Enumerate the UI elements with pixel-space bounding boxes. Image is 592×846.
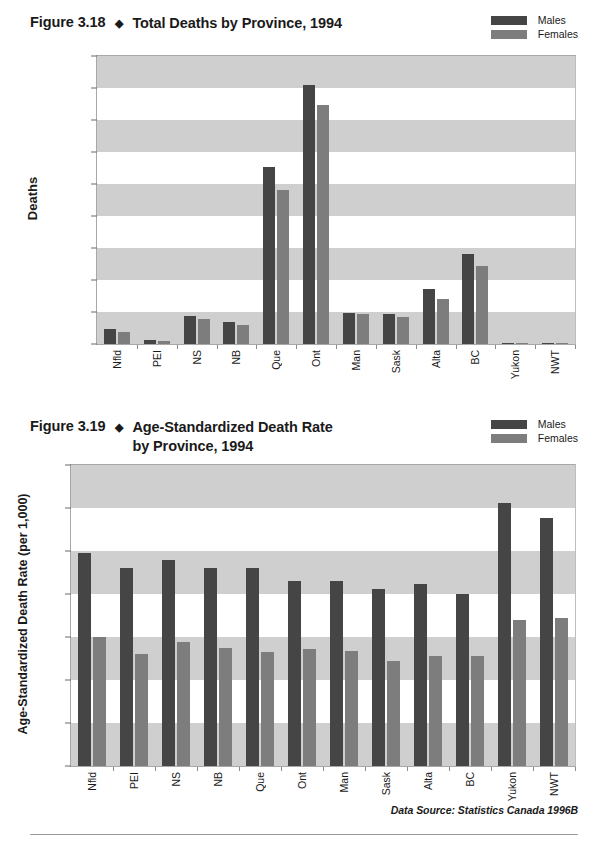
- y-tick-mark: [65, 637, 71, 638]
- bar-que-females: [261, 652, 274, 766]
- bar-nwt-males: [542, 343, 554, 344]
- bar-nb-males: [204, 568, 217, 766]
- legend-entry-females: Females: [491, 27, 578, 41]
- x-tick-label-nwt: NWT: [548, 772, 560, 796]
- legend-entry-females: Females: [491, 431, 578, 445]
- bar-pei-females: [158, 341, 170, 344]
- bar-ns-males: [184, 316, 196, 344]
- x-tick-mark: [177, 345, 178, 349]
- x-tick-mark: [137, 345, 138, 349]
- figure-2-plot: [70, 464, 576, 767]
- bar-pei-females: [135, 654, 148, 766]
- x-tick-label-sask: Sask: [390, 350, 402, 373]
- figure-1-plot: [96, 55, 576, 345]
- x-tick-mark: [407, 767, 408, 771]
- bar-nwt-females: [556, 343, 568, 344]
- bar-que-males: [263, 167, 275, 344]
- bar-alta-males: [423, 289, 435, 344]
- x-tick-label-alta: Alta: [430, 350, 442, 368]
- bar-sask-males: [383, 314, 395, 344]
- legend-swatch-males-icon: [491, 16, 527, 25]
- x-tick-label-bc: BC: [469, 350, 481, 365]
- y-tick-mark: [91, 152, 97, 153]
- bar-pei-males: [120, 568, 133, 766]
- x-tick-label-nfld: Nfld: [86, 772, 98, 791]
- figure-1-legend: Males Females: [491, 13, 578, 41]
- x-tick-mark: [533, 767, 534, 771]
- bar-ns-males: [162, 560, 175, 766]
- x-tick-mark: [256, 345, 257, 349]
- x-tick-mark: [281, 767, 282, 771]
- x-tick-label-sask: Sask: [380, 772, 392, 795]
- x-tick-label-alta: Alta: [422, 772, 434, 790]
- bars-layer: [71, 465, 575, 766]
- bar-man-males: [330, 581, 343, 766]
- bar-ns-females: [198, 319, 210, 344]
- bar-ont-females: [317, 105, 329, 344]
- x-tick-mark: [197, 767, 198, 771]
- legend-swatch-females-icon: [491, 434, 527, 443]
- x-tick-mark: [575, 767, 576, 771]
- legend-label-males: Males: [538, 417, 566, 431]
- bar-man-females: [357, 314, 369, 344]
- bar-ns-females: [177, 642, 190, 766]
- bar-sask-males: [372, 589, 385, 766]
- bar-nfld-males: [104, 329, 116, 344]
- y-tick-mark: [91, 120, 97, 121]
- figure-1-number: Figure 3.18: [30, 14, 105, 30]
- x-tick-mark: [495, 345, 496, 349]
- x-tick-label-bc: BC: [464, 772, 476, 787]
- x-tick-label-yukon: Yukon: [506, 772, 518, 801]
- bar-nwt-females: [555, 618, 568, 766]
- x-tick-mark: [296, 345, 297, 349]
- bar-yukon-females: [513, 620, 526, 766]
- diamond-icon: ◆: [115, 418, 123, 436]
- y-tick-mark: [91, 280, 97, 281]
- bar-nb-females: [237, 325, 249, 344]
- x-tick-mark: [376, 345, 377, 349]
- legend-swatch-males-icon: [491, 420, 527, 429]
- data-source-note: Data Source: Statistics Canada 1996B: [391, 804, 578, 816]
- x-tick-label-man: Man: [338, 772, 350, 792]
- bar-bc-females: [476, 266, 488, 344]
- bar-bc-males: [456, 594, 469, 766]
- page-bottom-rule: [30, 834, 578, 835]
- x-tick-mark: [535, 345, 536, 349]
- bar-alta-females: [437, 299, 449, 344]
- bar-yukon-males: [502, 343, 514, 344]
- legend-swatch-females-icon: [491, 30, 527, 39]
- y-tick-mark: [65, 680, 71, 681]
- bars-layer: [97, 56, 575, 344]
- bar-que-males: [246, 568, 259, 766]
- x-tick-mark: [491, 767, 492, 771]
- bar-sask-females: [387, 661, 400, 766]
- x-tick-mark: [155, 767, 156, 771]
- bar-nb-females: [219, 648, 232, 766]
- y-tick-mark: [65, 508, 71, 509]
- legend-entry-males: Males: [491, 13, 578, 27]
- x-tick-mark: [336, 345, 337, 349]
- legend-label-males: Males: [538, 13, 566, 27]
- x-tick-label-ont: Ont: [296, 772, 308, 789]
- x-tick-label-nb: NB: [230, 350, 242, 365]
- y-tick-mark: [65, 594, 71, 595]
- x-tick-mark: [416, 345, 417, 349]
- y-tick-mark: [91, 312, 97, 313]
- figure-1-title-row: Figure 3.18 ◆ Total Deaths by Province, …: [30, 14, 342, 33]
- x-tick-mark: [575, 345, 576, 349]
- bar-nb-males: [223, 322, 235, 344]
- y-tick-mark: [65, 723, 71, 724]
- figure-2-title: Age-Standardized Death Rate by Province,…: [132, 418, 332, 456]
- bar-alta-males: [414, 584, 427, 766]
- y-tick-mark: [91, 248, 97, 249]
- x-tick-mark: [456, 345, 457, 349]
- x-tick-label-que: Que: [254, 772, 266, 792]
- legend-label-females: Females: [538, 27, 578, 41]
- bar-sask-females: [397, 317, 409, 344]
- x-tick-label-nb: NB: [212, 772, 224, 787]
- x-tick-label-pei: PEI: [151, 350, 163, 367]
- figure-2-title-row: Figure 3.19 ◆ Age-Standardized Death Rat…: [30, 418, 333, 456]
- bar-man-females: [345, 651, 358, 766]
- figure-1-title: Total Deaths by Province, 1994: [132, 14, 341, 33]
- figure-2-number: Figure 3.19: [30, 418, 105, 434]
